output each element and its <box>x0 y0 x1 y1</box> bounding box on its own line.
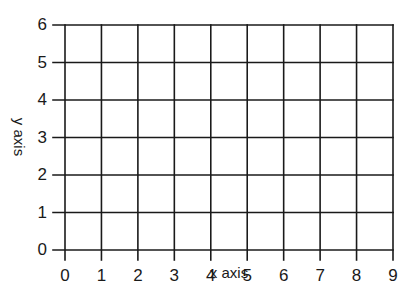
y-axis-label: y axis <box>11 118 28 156</box>
y-tick-label: 3 <box>38 128 47 147</box>
x-tick-label: 1 <box>97 266 106 285</box>
x-tick-label: 7 <box>315 266 324 285</box>
y-tick-label: 1 <box>38 203 47 222</box>
x-tick-label: 0 <box>60 266 69 285</box>
x-tick-label: 6 <box>279 266 288 285</box>
y-axis-ticks: 0123456 <box>38 15 47 259</box>
y-tick-label: 6 <box>38 15 47 34</box>
x-tick-label: 3 <box>170 266 179 285</box>
horizontal-grid-lines <box>53 25 393 250</box>
y-tick-label: 2 <box>38 165 47 184</box>
x-tick-label: 8 <box>352 266 361 285</box>
y-tick-label: 4 <box>38 90 47 109</box>
x-tick-label: 2 <box>133 266 142 285</box>
x-axis-label: x axis <box>210 264 248 281</box>
blank-grid-chart: 0123456789 0123456 x axis y axis <box>0 0 412 308</box>
y-tick-label: 5 <box>38 53 47 72</box>
y-tick-label: 0 <box>38 240 47 259</box>
vertical-grid-lines <box>65 25 393 260</box>
x-tick-label: 9 <box>388 266 397 285</box>
